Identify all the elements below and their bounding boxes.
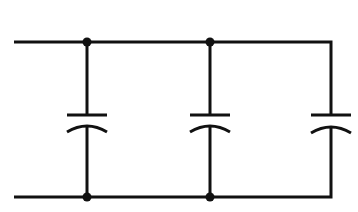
junction-dot [83,193,92,202]
junction-dot [83,38,92,47]
junction-dot [206,193,215,202]
capacitor-c1 [67,42,107,197]
parallel-capacitor-circuit [0,0,358,212]
capacitor-c2 [190,42,230,197]
junction-dots [83,38,215,202]
bottom-wire [14,128,331,197]
junction-dot [206,38,215,47]
circuit-schematic [0,0,358,212]
top-wire [14,42,331,115]
